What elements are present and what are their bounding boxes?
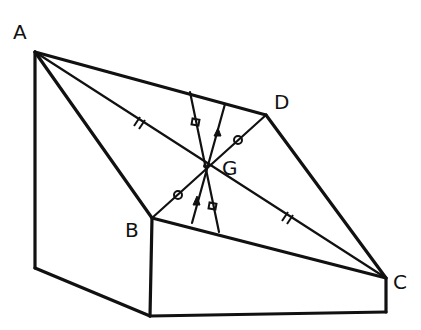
- label-d: D: [274, 92, 289, 112]
- edge-base-front: [150, 312, 386, 316]
- geometry-diagram: [0, 0, 421, 330]
- label-b: B: [125, 220, 139, 240]
- double-tick-gc-icon: [282, 212, 293, 224]
- label-c: C: [393, 272, 407, 292]
- edge-b-vertical: [150, 218, 152, 316]
- edge-bc: [152, 218, 386, 278]
- double-tick-ag-icon: [134, 117, 145, 129]
- point-g: [203, 164, 207, 168]
- edge-ab: [35, 52, 152, 218]
- edge-dc: [266, 115, 386, 278]
- arrow-mark-top-icon: [214, 128, 221, 136]
- square-mark-bottom-icon: [209, 203, 217, 210]
- edge-ad: [35, 52, 266, 115]
- edge-base-left: [35, 268, 150, 316]
- label-g: G: [222, 158, 238, 178]
- label-a: A: [13, 22, 27, 42]
